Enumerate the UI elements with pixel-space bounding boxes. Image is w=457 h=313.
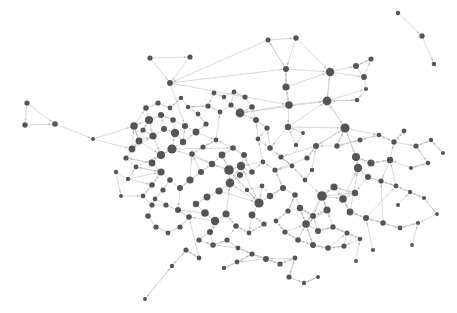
graph-node[interactable] <box>143 105 149 111</box>
graph-node[interactable] <box>267 145 273 151</box>
graph-node[interactable] <box>297 205 303 211</box>
graph-node[interactable] <box>182 123 188 129</box>
graph-node[interactable] <box>183 247 188 252</box>
graph-node[interactable] <box>241 152 247 158</box>
graph-node[interactable] <box>293 256 298 261</box>
graph-node[interactable] <box>168 106 173 111</box>
graph-node[interactable] <box>422 196 426 200</box>
graph-node[interactable] <box>140 127 145 132</box>
graph-node[interactable] <box>236 109 245 118</box>
graph-node[interactable] <box>222 210 229 217</box>
graph-node[interactable] <box>408 190 412 194</box>
graph-node[interactable] <box>330 224 335 229</box>
graph-node[interactable] <box>358 138 363 143</box>
graph-node[interactable] <box>24 100 29 105</box>
graph-node[interactable] <box>249 251 254 256</box>
graph-node[interactable] <box>167 144 176 153</box>
graph-node[interactable] <box>413 143 418 148</box>
graph-node[interactable] <box>286 274 291 279</box>
graph-node[interactable] <box>310 242 316 248</box>
graph-node[interactable] <box>334 143 339 148</box>
graph-node[interactable] <box>177 224 182 229</box>
graph-node[interactable] <box>282 229 287 234</box>
graph-node[interactable] <box>237 162 245 170</box>
graph-node[interactable] <box>196 112 201 117</box>
graph-node[interactable] <box>391 139 396 144</box>
graph-node[interactable] <box>145 213 151 219</box>
graph-node[interactable] <box>285 101 293 109</box>
graph-node[interactable] <box>235 260 240 265</box>
graph-node[interactable] <box>261 221 266 226</box>
graph-node[interactable] <box>166 231 171 236</box>
graph-node[interactable] <box>410 243 414 247</box>
graph-node[interactable] <box>205 103 210 108</box>
graph-node[interactable] <box>402 129 407 134</box>
graph-node[interactable] <box>237 172 243 178</box>
graph-node[interactable] <box>380 220 386 226</box>
graph-node[interactable] <box>416 221 420 225</box>
graph-node[interactable] <box>368 56 373 61</box>
graph-node[interactable] <box>201 209 209 217</box>
graph-node[interactable] <box>367 159 374 166</box>
graph-node[interactable] <box>222 266 226 270</box>
graph-node[interactable] <box>167 80 173 86</box>
graph-node[interactable] <box>274 219 279 224</box>
graph-node[interactable] <box>293 35 298 40</box>
graph-node[interactable] <box>358 237 363 242</box>
graph-node[interactable] <box>364 87 368 91</box>
graph-node[interactable] <box>330 183 337 190</box>
graph-node[interactable] <box>323 206 330 213</box>
graph-node[interactable] <box>114 170 118 174</box>
graph-node[interactable] <box>355 98 360 103</box>
graph-node[interactable] <box>141 194 146 199</box>
graph-node[interactable] <box>315 228 321 234</box>
graph-node[interactable] <box>353 63 359 69</box>
graph-node[interactable] <box>249 169 255 175</box>
graph-node[interactable] <box>171 129 179 137</box>
graph-node[interactable] <box>253 117 259 123</box>
graph-node[interactable] <box>256 137 261 142</box>
graph-node[interactable] <box>224 165 234 175</box>
graph-node[interactable] <box>52 121 58 127</box>
graph-node[interactable] <box>230 145 236 151</box>
graph-node[interactable] <box>187 54 192 59</box>
graph-node[interactable] <box>326 68 334 76</box>
graph-node[interactable] <box>245 188 249 192</box>
graph-node[interactable] <box>119 194 123 198</box>
graph-node[interactable] <box>236 246 241 251</box>
graph-node[interactable] <box>200 144 205 149</box>
graph-node[interactable] <box>352 190 358 196</box>
graph-node[interactable] <box>303 178 308 183</box>
graph-node[interactable] <box>339 195 347 203</box>
graph-node[interactable] <box>126 177 130 181</box>
graph-node[interactable] <box>207 229 213 235</box>
graph-node[interactable] <box>157 151 165 159</box>
graph-node[interactable] <box>394 184 399 189</box>
graph-node[interactable] <box>441 151 445 155</box>
graph-node[interactable] <box>134 165 139 170</box>
graph-node[interactable] <box>304 155 309 160</box>
graph-node[interactable] <box>212 91 217 96</box>
graph-node[interactable] <box>242 94 247 99</box>
graph-node[interactable] <box>285 208 290 213</box>
graph-node[interactable] <box>215 187 222 194</box>
graph-node[interactable] <box>352 153 360 161</box>
graph-node[interactable] <box>193 201 199 207</box>
graph-node[interactable] <box>193 129 200 136</box>
graph-node[interactable] <box>136 138 143 145</box>
graph-node[interactable] <box>377 133 382 138</box>
graph-node[interactable] <box>197 256 202 261</box>
graph-node[interactable] <box>409 166 413 170</box>
graph-node[interactable] <box>149 202 154 207</box>
graph-node[interactable] <box>222 95 226 99</box>
graph-node[interactable] <box>354 164 362 172</box>
graph-node[interactable] <box>435 212 439 216</box>
graph-node[interactable] <box>277 261 282 266</box>
graph-node[interactable] <box>167 177 173 183</box>
graph-node[interactable] <box>224 237 229 242</box>
graph-node[interactable] <box>278 154 283 159</box>
graph-node[interactable] <box>233 223 239 229</box>
graph-node[interactable] <box>260 184 265 189</box>
graph-node[interactable] <box>419 33 424 38</box>
graph-node[interactable] <box>249 104 255 110</box>
